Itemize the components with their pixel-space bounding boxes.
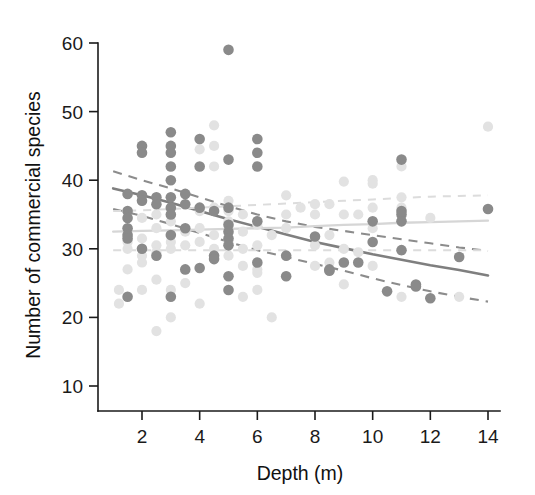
data-point [209, 141, 219, 151]
data-point [252, 147, 263, 158]
data-point [454, 252, 465, 263]
data-point [122, 233, 133, 244]
data-point [252, 134, 263, 145]
x-tick-label: 2 [137, 426, 148, 447]
y-tick-label: 20 [62, 307, 83, 328]
data-point [238, 292, 248, 302]
data-point [483, 204, 494, 215]
data-point [324, 265, 335, 276]
x-tick-label: 8 [310, 426, 321, 447]
data-point [267, 312, 277, 322]
plot-canvas: 102030405060 2468101214 Depth (m) Number… [0, 0, 535, 495]
data-point [194, 161, 205, 172]
y-tick-label: 10 [62, 376, 83, 397]
y-axis-ticks: 102030405060 [62, 33, 98, 397]
data-point [223, 154, 234, 165]
data-point [223, 240, 234, 251]
data-point [310, 209, 320, 219]
data-point [137, 233, 147, 243]
data-point [166, 192, 177, 203]
data-point [238, 244, 248, 254]
data-point [180, 278, 190, 288]
data-point [122, 264, 132, 274]
data-point [166, 147, 177, 158]
data-point [281, 271, 292, 282]
data-point [281, 223, 291, 233]
x-tick-label: 4 [194, 426, 205, 447]
data-point [122, 292, 133, 303]
data-point [267, 230, 277, 240]
data-point [281, 250, 292, 261]
data-point [339, 176, 349, 186]
data-point [238, 227, 248, 237]
data-point [310, 261, 320, 271]
data-point [209, 161, 219, 171]
data-point [122, 213, 133, 224]
data-point [194, 202, 205, 213]
data-point [324, 199, 334, 209]
y-tick-label: 50 [62, 102, 83, 123]
data-point [166, 161, 177, 172]
x-tick-label: 6 [252, 426, 263, 447]
data-point [382, 286, 393, 297]
data-point [353, 257, 364, 268]
data-point [425, 293, 436, 304]
data-point [310, 199, 320, 209]
data-point [137, 244, 148, 255]
data-point [396, 216, 407, 227]
x-tick-label: 12 [420, 426, 441, 447]
data-point [339, 244, 349, 254]
data-point [425, 213, 435, 223]
data-point [223, 202, 234, 213]
data-point [353, 247, 363, 257]
data-point [295, 203, 305, 213]
data-point [238, 209, 248, 219]
data-point [396, 245, 407, 256]
data-point [195, 299, 205, 309]
data-point [180, 223, 191, 234]
data-point [339, 209, 349, 219]
x-axis-title: Depth (m) [257, 462, 344, 484]
scatter-plot-figure: 102030405060 2468101214 Depth (m) Number… [0, 0, 535, 495]
data-point [339, 279, 349, 289]
data-point [223, 271, 234, 282]
data-point [151, 209, 161, 219]
data-point [114, 299, 124, 309]
data-point [137, 213, 147, 223]
x-axis-ticks: 2468101214 [137, 411, 499, 447]
data-point [252, 257, 263, 268]
dark-group-points [122, 45, 493, 304]
data-point [223, 45, 234, 56]
data-point [209, 254, 220, 265]
data-point [180, 264, 191, 275]
data-point [166, 175, 177, 186]
data-point [396, 154, 407, 165]
data-point [238, 261, 248, 271]
data-point [180, 189, 191, 200]
data-point [166, 292, 177, 303]
data-point [368, 203, 378, 213]
data-point [367, 216, 378, 227]
data-point [114, 285, 124, 295]
data-point [151, 250, 162, 261]
y-axis-title: Number of commercial species [22, 91, 44, 359]
data-point [166, 127, 177, 138]
data-point [122, 189, 133, 200]
data-point [137, 147, 148, 158]
data-point [151, 199, 162, 210]
data-point [396, 192, 406, 202]
data-point [194, 263, 205, 274]
data-point [166, 230, 177, 241]
y-tick-label: 30 [62, 239, 83, 260]
data-point [194, 134, 205, 145]
data-point [223, 251, 233, 261]
data-point [151, 326, 161, 336]
data-point [252, 268, 262, 278]
data-point [339, 257, 350, 268]
data-point [151, 275, 161, 285]
data-point [137, 257, 147, 267]
data-point [209, 230, 219, 240]
data-point [122, 244, 132, 254]
data-point [324, 230, 334, 240]
data-point [252, 285, 262, 295]
